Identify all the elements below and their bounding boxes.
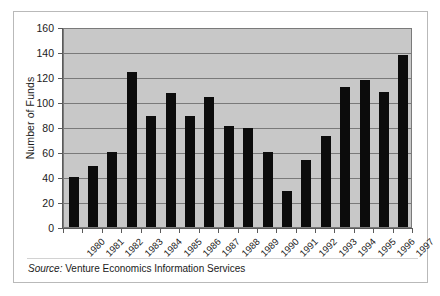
x-axis-tick-label: 1995: [375, 236, 398, 259]
x-axis-tick-mark: [121, 229, 122, 233]
x-axis-tick-mark: [141, 229, 142, 233]
x-axis-tick-label: 1990: [278, 236, 301, 259]
y-axis-tick-mark: [58, 178, 62, 179]
y-axis-tick-label: 120: [20, 72, 54, 84]
x-axis-tick-mark: [199, 229, 200, 233]
x-axis-tick-mark: [296, 229, 297, 233]
x-axis-tick-label: 1980: [84, 236, 107, 259]
source-divider: [27, 258, 418, 259]
x-axis-tick-label: 1985: [181, 236, 204, 259]
x-axis-tick-mark: [334, 229, 335, 233]
x-axis-tick-mark: [160, 229, 161, 233]
bar: [243, 128, 253, 227]
gridline: [64, 78, 411, 79]
bar: [321, 136, 331, 227]
x-axis-tick-mark: [218, 229, 219, 233]
x-axis-tick-label: 1997: [413, 236, 436, 259]
x-axis-tick-mark: [179, 229, 180, 233]
x-axis-tick-label: 1991: [297, 236, 320, 259]
bar: [224, 126, 234, 227]
x-axis-tick-mark: [354, 229, 355, 233]
bar: [340, 87, 350, 227]
y-axis-tick-label: 140: [20, 47, 54, 59]
y-axis-tick-mark: [58, 203, 62, 204]
y-axis-tick-mark: [58, 153, 62, 154]
x-axis-tick-label: 1986: [200, 236, 223, 259]
bar: [204, 97, 214, 227]
y-axis-tick-mark: [58, 53, 62, 54]
x-axis-tick-label: 1987: [219, 236, 242, 259]
y-axis-tick-label: 160: [20, 22, 54, 34]
plot-area: [63, 28, 412, 228]
x-axis-tick-label: 1988: [239, 236, 262, 259]
x-axis-tick-label: 1992: [316, 236, 339, 259]
bar: [146, 116, 156, 227]
source-text: Venture Economics Information Services: [65, 263, 245, 274]
bar: [263, 152, 273, 227]
bar: [69, 177, 79, 227]
x-axis-tick-mark: [63, 229, 64, 233]
x-axis-tick-mark: [315, 229, 316, 233]
x-axis-tick-mark: [238, 229, 239, 233]
x-axis-tick-label: 1981: [103, 236, 126, 259]
x-axis-tick-mark: [82, 229, 83, 233]
x-axis-tick-label: 1994: [355, 236, 378, 259]
y-axis-tick-mark: [58, 128, 62, 129]
x-axis-tick-mark: [393, 229, 394, 233]
bar: [301, 160, 311, 228]
gridline: [64, 53, 411, 54]
x-axis-tick-label: 1993: [336, 236, 359, 259]
x-axis-tick-label: 1982: [122, 236, 145, 259]
bar: [166, 93, 176, 227]
y-axis-tick-label: 40: [20, 172, 54, 184]
bar: [88, 166, 98, 227]
bar: [282, 191, 292, 227]
y-axis-tick-label: 60: [20, 147, 54, 159]
source-prefix: Source:: [28, 263, 62, 274]
y-axis-tick-label: 20: [20, 197, 54, 209]
x-axis-tick-label: 1996: [394, 236, 417, 259]
x-axis-tick-label: 1989: [258, 236, 281, 259]
x-axis-tick-mark: [373, 229, 374, 233]
x-axis-tick-mark: [412, 229, 413, 233]
x-axis-tick-mark: [102, 229, 103, 233]
y-axis-tick-label: 80: [20, 122, 54, 134]
x-axis-tick-label: 1984: [161, 236, 184, 259]
chart-figure: Number of Funds 020406080100120140160 19…: [13, 11, 428, 283]
gridline: [64, 128, 411, 129]
x-axis-tick-mark: [276, 229, 277, 233]
gridline: [64, 103, 411, 104]
bar: [127, 72, 137, 227]
bar: [185, 116, 195, 227]
gridline: [64, 28, 411, 29]
y-axis-tick-mark: [58, 78, 62, 79]
source-note: Source: Venture Economics Information Se…: [28, 263, 245, 274]
y-axis-tick-mark: [58, 28, 62, 29]
y-axis-tick-label: 100: [20, 97, 54, 109]
x-axis-tick-mark: [257, 229, 258, 233]
bar: [398, 55, 408, 228]
bar: [360, 80, 370, 228]
y-axis-tick-label: 0: [20, 222, 54, 234]
bar: [107, 152, 117, 227]
y-axis-tick-mark: [58, 228, 62, 229]
bar: [379, 92, 389, 227]
y-axis-tick-mark: [58, 103, 62, 104]
x-axis-tick-label: 1983: [142, 236, 165, 259]
